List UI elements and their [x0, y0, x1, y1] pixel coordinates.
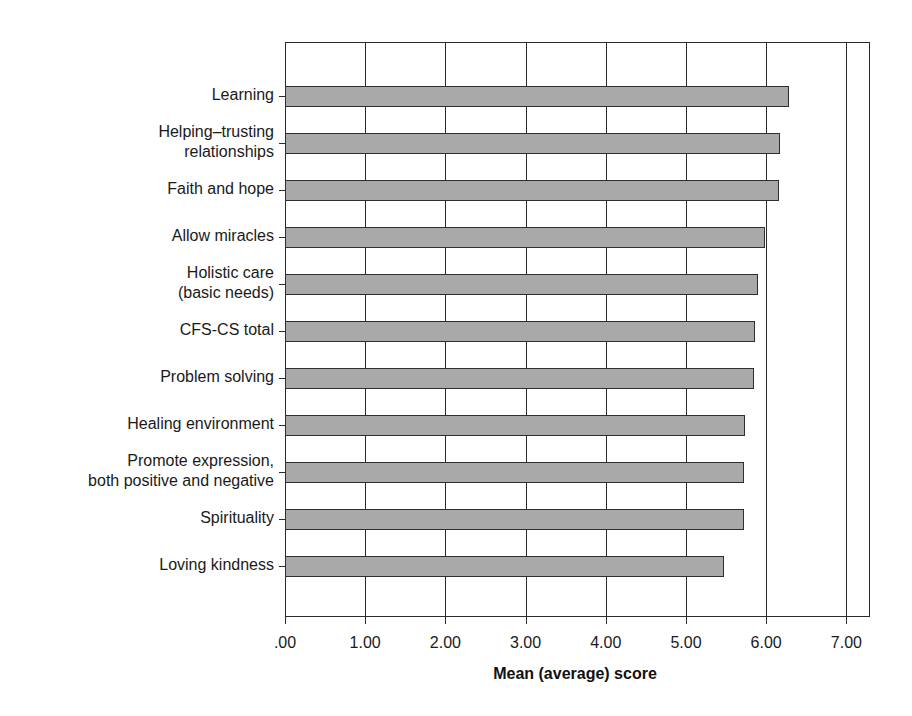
x-tick-label: 5.00: [656, 634, 716, 652]
bar: [285, 462, 744, 483]
x-tick-label: 1.00: [335, 634, 395, 652]
bar: [285, 227, 765, 248]
category-label: Spirituality: [200, 508, 274, 528]
category-label: Helping–trusting relationships: [158, 122, 274, 162]
y-tick-mark: [279, 331, 286, 332]
bar: [285, 274, 758, 295]
bar: [285, 180, 779, 201]
y-tick-mark: [279, 472, 286, 473]
x-axis-title: Mean (average) score: [440, 665, 710, 683]
bar: [285, 86, 789, 107]
category-label: CFS-CS total: [180, 320, 274, 340]
bar: [285, 556, 724, 577]
category-label: Faith and hope: [167, 179, 274, 199]
x-tick-label: 7.00: [816, 634, 876, 652]
y-tick-mark: [279, 284, 286, 285]
x-tick-label: 2.00: [415, 634, 475, 652]
bar: [285, 415, 745, 436]
x-tick-mark: [445, 616, 446, 624]
category-label: Promote expression, both positive and ne…: [88, 451, 274, 491]
gridline: [766, 42, 767, 617]
y-tick-mark: [279, 237, 286, 238]
x-tick-label: 3.00: [496, 634, 556, 652]
category-label: Loving kindness: [159, 555, 274, 575]
bar: [285, 368, 754, 389]
category-label: Allow miracles: [172, 226, 274, 246]
category-label: Holistic care (basic needs): [178, 263, 274, 303]
x-tick-mark: [526, 616, 527, 624]
bar: [285, 509, 744, 530]
x-tick-label: .00: [255, 634, 315, 652]
x-tick-mark: [606, 616, 607, 624]
bar: [285, 133, 780, 154]
y-tick-mark: [279, 425, 286, 426]
x-tick-mark: [285, 616, 286, 624]
x-tick-label: 6.00: [736, 634, 796, 652]
category-label: Learning: [212, 85, 274, 105]
x-tick-mark: [686, 616, 687, 624]
category-label: Problem solving: [160, 367, 274, 387]
y-tick-mark: [279, 519, 286, 520]
x-tick-label: 4.00: [576, 634, 636, 652]
y-tick-mark: [279, 378, 286, 379]
x-tick-mark: [846, 616, 847, 624]
category-label: Healing environment: [127, 414, 274, 434]
horizontal-bar-chart: LearningHelping–trusting relationshipsFa…: [0, 0, 912, 716]
y-tick-mark: [279, 96, 286, 97]
gridline: [846, 42, 847, 617]
y-tick-mark: [279, 566, 286, 567]
bar: [285, 321, 755, 342]
x-tick-mark: [766, 616, 767, 624]
y-tick-mark: [279, 143, 286, 144]
x-tick-mark: [365, 616, 366, 624]
y-tick-mark: [279, 190, 286, 191]
